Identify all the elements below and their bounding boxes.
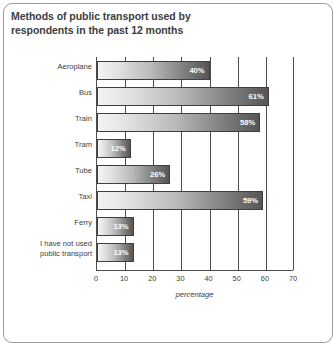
bar-value-label: 13% [113,223,128,231]
plot-area: 40% 61% 58% 12% 26% 59% [96,57,293,271]
bar-train: 58% [97,113,260,132]
xtick-10: 10 [120,274,128,283]
category-label-tube: Tube [75,166,92,176]
gridline-70 [293,57,294,270]
category-label-aeroplane: Aeroplane [57,62,92,72]
bar-value-label: 13% [113,249,128,257]
xtick-50: 50 [233,274,241,283]
xtick-30: 30 [176,274,184,283]
bar-tram: 12% [97,139,131,158]
bar-taxi: 59% [97,191,263,210]
xtick-40: 40 [204,274,212,283]
category-label-bus: Bus [79,88,92,98]
bar-value-label: 26% [150,171,165,179]
xtick-0: 0 [94,274,98,283]
xtick-60: 60 [261,274,269,283]
bar-ferry: 13% [97,217,134,236]
bar-value-label: 59% [243,197,258,205]
category-label-tram: Tram [75,140,92,150]
x-axis-title: percentage [96,290,293,299]
bar-not-used: 13% [97,243,134,262]
bar-value-label: 40% [189,67,204,75]
bar-tube: 26% [97,165,170,184]
bar-value-label: 12% [111,145,126,153]
bar-value-label: 58% [240,119,255,127]
bar-aeroplane: 40% [97,61,210,80]
bar-bus: 61% [97,87,269,106]
bar-value-label: 61% [248,93,263,101]
xtick-70: 70 [289,274,297,283]
xtick-20: 20 [148,274,156,283]
category-label-ferry: Ferry [74,218,92,228]
category-label-taxi: Taxi [78,192,92,202]
category-label-train: Train [75,114,92,124]
category-label-not-used: I have not used public transport [40,239,92,258]
